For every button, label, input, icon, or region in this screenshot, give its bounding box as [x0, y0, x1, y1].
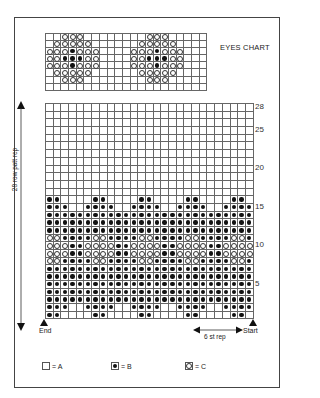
stitch-color-b [145, 273, 153, 281]
stitch-color-b [107, 211, 115, 219]
stitch-color-b [145, 203, 153, 211]
row-number-5: 5 [255, 279, 259, 288]
stitch-color-a [169, 311, 177, 319]
stitch-color-a [122, 41, 130, 48]
stitch-color-a [207, 119, 215, 127]
stitch-color-b [61, 257, 69, 265]
stitch-color-b [107, 280, 115, 288]
stitch-color-b [222, 288, 230, 296]
stitch-color-b [245, 219, 253, 227]
stitch-color-a [207, 303, 215, 311]
stitch-color-c [138, 257, 146, 265]
stitch-color-c [176, 62, 184, 69]
chart-row [46, 234, 254, 242]
stitch-color-b [61, 227, 69, 235]
stitch-color-a [46, 188, 54, 196]
stitch-color-b [53, 303, 61, 311]
stitch-color-a [115, 34, 123, 41]
stitch-color-b [169, 288, 177, 296]
stitch-color-a [69, 111, 77, 119]
stitch-color-c [99, 250, 107, 258]
stitch-color-a [215, 311, 223, 319]
stitch-color-b [176, 257, 184, 265]
stitch-color-b [207, 250, 215, 258]
stitch-color-a [61, 104, 69, 112]
stitch-color-b [99, 219, 107, 227]
stitch-color-a [99, 188, 107, 196]
stitch-color-c [130, 242, 138, 250]
stitch-color-a [215, 127, 223, 135]
stitch-color-b [169, 211, 177, 219]
stitch-color-b [153, 219, 161, 227]
stitch-color-a [84, 150, 92, 158]
stitch-color-b [138, 273, 146, 281]
stitch-color-b [138, 265, 146, 273]
stitch-color-a [199, 180, 207, 188]
stitch-color-b [69, 265, 77, 273]
row-number-28: 28 [255, 102, 264, 111]
stitch-color-b [153, 203, 161, 211]
stitch-color-a [53, 157, 61, 165]
stitch-color-a [130, 34, 138, 41]
stitch-color-c [53, 250, 61, 258]
stitch-color-b [199, 211, 207, 219]
stitch-color-b [192, 227, 200, 235]
stitch-color-a [61, 83, 69, 90]
stitch-color-c [184, 234, 192, 242]
stitch-color-a [92, 165, 100, 173]
stitch-color-c [192, 250, 200, 258]
stitch-color-b [99, 303, 107, 311]
stitch-color-a [107, 173, 115, 181]
stitch-color-a [115, 55, 123, 62]
stitch-color-a [122, 196, 130, 204]
chart-row [46, 203, 254, 211]
stitch-color-a [238, 142, 246, 150]
stitch-color-a [230, 165, 238, 173]
stitch-color-b [245, 257, 253, 265]
stitch-color-c [238, 250, 246, 258]
stitch-color-a [207, 157, 215, 165]
stitch-color-b [230, 203, 238, 211]
stitch-color-a [238, 165, 246, 173]
stitch-color-a [76, 134, 84, 142]
stitch-color-a [184, 69, 192, 76]
stitch-color-a [99, 134, 107, 142]
stitch-color-a [199, 111, 207, 119]
stitch-color-b [46, 273, 54, 281]
stitch-color-b [69, 211, 77, 219]
stitch-color-b [222, 211, 230, 219]
stitch-color-a [215, 134, 223, 142]
stitch-color-a [115, 203, 123, 211]
stitch-color-b [46, 288, 54, 296]
stitch-color-a [53, 34, 61, 41]
stitch-color-b [107, 234, 115, 242]
stitch-color-a [76, 203, 84, 211]
stitch-color-a [222, 111, 230, 119]
stitch-color-a [184, 188, 192, 196]
stitch-color-a [84, 34, 92, 41]
stitch-color-b [153, 288, 161, 296]
stitch-color-b [153, 296, 161, 304]
stitch-color-c [76, 69, 84, 76]
stitch-color-a [199, 188, 207, 196]
stitch-color-a [161, 203, 169, 211]
stitch-color-a [230, 150, 238, 158]
stitch-color-a [161, 196, 169, 204]
stitch-color-c [84, 242, 92, 250]
stitch-color-b [184, 227, 192, 235]
stitch-color-a [46, 83, 54, 90]
stitch-color-b [107, 288, 115, 296]
chart-row [46, 69, 207, 76]
stitch-color-a [230, 188, 238, 196]
stitch-color-b [207, 288, 215, 296]
stitch-color-a [53, 111, 61, 119]
stitch-color-a [69, 104, 77, 112]
stitch-color-b [53, 196, 61, 204]
stitch-color-a [107, 83, 115, 90]
chart-row [46, 311, 254, 319]
stitch-color-a [184, 180, 192, 188]
stitch-color-b [176, 265, 184, 273]
stitch-color-b [92, 273, 100, 281]
stitch-color-b [238, 296, 246, 304]
stitch-color-a [115, 157, 123, 165]
